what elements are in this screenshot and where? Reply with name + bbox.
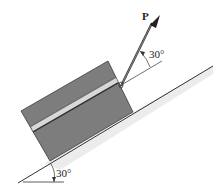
diagram-container: P 30° 30° [0,0,223,196]
incline-diagram: P 30° 30° [0,0,223,196]
force-angle-arrow [140,51,145,56]
force-angle-label: 30° [149,48,164,60]
force-label: P [142,10,149,22]
incline-angle-label: 30° [56,167,71,179]
